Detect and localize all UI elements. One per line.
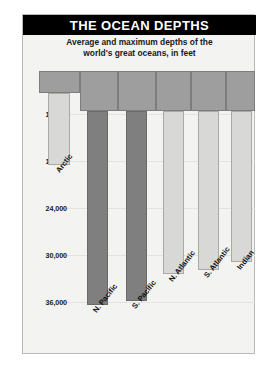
- bar-average-s-pacific: [118, 71, 156, 111]
- chart-plot-area: 12,000 18,000 24,000 30,000 36,000 Arcti…: [23, 15, 256, 355]
- bar-average-n-atlantic: [156, 71, 191, 111]
- axis-tick-30000: 30,000: [27, 251, 67, 260]
- bar-maximum-s-pacific: [126, 111, 147, 301]
- bar-average-n-pacific: [80, 71, 118, 111]
- axis-tick-24000: 24,000: [27, 204, 67, 213]
- bar-maximum-n-atlantic: [163, 111, 184, 274]
- bar-maximum-n-pacific: [87, 111, 108, 305]
- bar-average-indian: [226, 71, 255, 111]
- bar-average-arctic: [39, 71, 80, 93]
- bar-maximum-indian: [231, 111, 252, 262]
- chart-panel: THE OCEAN DEPTHS Average and maximum dep…: [22, 14, 255, 354]
- bar-average-s-atlantic: [191, 71, 226, 111]
- axis-tick-36000: 36,000: [27, 298, 67, 307]
- bar-maximum-s-atlantic: [198, 111, 219, 270]
